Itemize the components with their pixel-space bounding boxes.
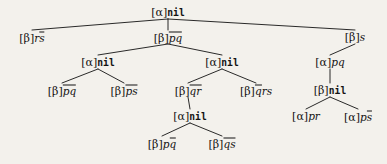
tree-edges (0, 0, 387, 164)
tree-node: [β]ps (110, 84, 137, 97)
node-nil-label: nil (97, 57, 115, 68)
proof-tree-figure: [α]nil[β]rs[β]pq[β]s[α]nil[α]nil[α]pq[β]… (0, 0, 387, 164)
tree-node: [β]qs (208, 137, 235, 150)
negated-literal: qs (223, 138, 235, 150)
tree-edge (32, 19, 168, 30)
literal: pr (308, 111, 320, 122)
node-prefix-label: [β] (19, 32, 34, 45)
tree-edge (62, 69, 98, 83)
tree-edge (306, 97, 330, 109)
tree-edge (98, 44, 168, 55)
negated-literal: qr (190, 85, 202, 97)
tree-edge (162, 123, 190, 136)
tree-edge (222, 69, 256, 83)
node-prefix-label: [α] (173, 110, 189, 123)
node-prefix-label: [α] (292, 110, 308, 123)
tree-node: [α]pr (292, 111, 320, 122)
node-prefix-label: [β] (175, 85, 190, 98)
tree-edge (190, 123, 222, 136)
node-prefix-label: [α] (205, 56, 221, 69)
negated-literal: pq (169, 32, 182, 44)
tree-edge (330, 44, 355, 55)
tree-node: [β]nil (314, 85, 347, 96)
tree-edge (330, 97, 358, 109)
tree-node: [α]nil (81, 57, 115, 68)
tree-node: [β]rs (19, 31, 44, 44)
node-prefix-label: [α] (315, 56, 331, 69)
tree-node: [β]pq (148, 137, 176, 150)
node-nil-label: nil (221, 57, 239, 68)
node-prefix-label: [β] (345, 31, 360, 44)
tree-node: [α]nil (205, 57, 239, 68)
tree-edge (168, 19, 355, 30)
node-prefix-label: [β] (314, 84, 329, 97)
node-prefix-label: [β] (148, 138, 163, 151)
tree-node: [β]qr (175, 84, 202, 97)
tree-edge (188, 97, 190, 109)
tree-node: [α]nil (173, 111, 207, 122)
node-prefix-label: [β] (110, 85, 125, 98)
tree-node: [β]s (345, 32, 365, 43)
tree-edge (188, 69, 222, 83)
tree-node: [α]nil (151, 7, 185, 18)
negated-literal: pq (63, 85, 76, 97)
node-prefix-label: [β] (154, 32, 169, 45)
negated-literal: ps (125, 85, 137, 97)
negated-literal: s (39, 32, 44, 44)
tree-node: [β]pq (48, 84, 76, 97)
tree-edge (168, 44, 222, 55)
node-prefix-label: [β] (240, 85, 255, 98)
node-nil-label: nil (189, 111, 207, 122)
literal: p (163, 139, 170, 150)
tree-node: [α]pq (315, 57, 344, 68)
tree-edge (98, 69, 124, 83)
literal: rs (262, 86, 272, 97)
node-prefix-label: [α] (81, 56, 97, 69)
negated-literal: q (169, 138, 176, 150)
node-nil-label: nil (167, 7, 185, 18)
node-prefix-label: [β] (48, 85, 63, 98)
literal: p (360, 112, 367, 123)
node-prefix-label: [α] (151, 6, 167, 19)
negated-literal: s (367, 111, 372, 123)
node-prefix-label: [α] (344, 111, 360, 124)
tree-node: [β]qrs (240, 84, 272, 97)
literal: pq (331, 57, 344, 68)
node-prefix-label: [β] (208, 138, 223, 151)
negated-literal: q (255, 85, 262, 97)
node-nil-label: nil (329, 85, 347, 96)
tree-node: [α]ps (344, 110, 372, 123)
tree-node: [β]pq (154, 31, 182, 44)
literal: s (360, 32, 365, 43)
